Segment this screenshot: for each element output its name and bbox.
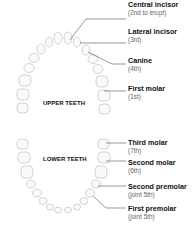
label-third-molar: Third molar (7th) [128, 139, 168, 155]
tooth-lower-central-incisor-right [65, 207, 72, 213]
tooth-upper-molar-1-right [96, 76, 108, 87]
tooth-lower-premolar-2-left [27, 180, 36, 188]
tooth-upper-canine-left [37, 44, 45, 54]
label-eruption-order: (7th) [128, 147, 168, 155]
label-eruption-order: (joint 5th) [128, 213, 176, 221]
tooth-lower-premolar-1-right [86, 189, 95, 197]
tooth-lower-premolar-2-right [92, 180, 101, 188]
upper-teeth-label: UPPER TEETH [43, 100, 85, 106]
tooth-lower-premolar-1-left [33, 189, 42, 197]
tooth-lower-canine-right [80, 198, 88, 205]
label-first-premolar: First premolar (joint 5th) [128, 205, 176, 221]
tooth-upper-lateral-incisor-left [46, 37, 53, 47]
label-name: Lateral incisor [128, 28, 177, 36]
tooth-upper-lateral-incisor-right [74, 37, 81, 47]
tooth-lower-canine-left [39, 198, 47, 205]
tooth-upper-premolar-1-left [29, 54, 39, 63]
label-second-molar: Second molar (6th) [128, 159, 176, 175]
tooth-upper-molar-2-right [98, 90, 110, 101]
tooth-upper-molar-3-right [99, 104, 110, 114]
label-second-premolar: Second premolar (joint 5th) [128, 183, 187, 199]
tooth-upper-premolar-2-right [93, 65, 103, 74]
tooth-upper-molar-1-left [19, 75, 31, 86]
tooth-upper-premolar-2-left [24, 64, 34, 73]
tooth-upper-premolar-1-right [88, 55, 98, 64]
lower-teeth-label: LOWER TEETH [43, 156, 87, 162]
label-name: Canine [128, 57, 152, 65]
label-central-incisor: Central incisor (2nd to erupt) [128, 1, 178, 17]
label-first-molar: First molar (1st) [128, 85, 165, 101]
label-name: Third molar [128, 139, 168, 147]
tooth-lower-molar-3-left [17, 139, 28, 149]
label-eruption-order: (joint 5th) [128, 191, 187, 199]
tooth-lower-molar-2-left [18, 152, 30, 163]
label-name: Second premolar [128, 183, 187, 191]
tooth-lower-molar-1-left [21, 166, 33, 178]
label-eruption-order: (2nd to erupt) [128, 9, 178, 17]
tooth-upper-central-incisor-left [54, 32, 62, 44]
label-name: Central incisor [128, 1, 178, 9]
lower-arch [17, 139, 110, 213]
label-lateral-incisor: Lateral incisor (3rd) [128, 28, 177, 44]
tooth-lower-molar-2-right [98, 152, 110, 163]
leader-lines [70, 19, 126, 208]
tooth-upper-canine-right [82, 45, 90, 55]
label-canine: Canine (4th) [128, 57, 152, 73]
tooth-lower-molar-1-right [95, 166, 107, 178]
leader-first-premolar [93, 196, 126, 208]
tooth-upper-molar-3-left [17, 103, 28, 113]
tooth-lower-lateral-incisor-left [47, 204, 54, 210]
label-eruption-order: (1st) [128, 93, 165, 101]
label-name: First molar [128, 85, 165, 93]
leader-central-incisor [70, 19, 126, 40]
label-name: First premolar [128, 205, 176, 213]
tooth-lower-central-incisor-left [55, 207, 62, 213]
label-eruption-order: (4th) [128, 65, 152, 73]
tooth-upper-central-incisor-right [64, 32, 72, 44]
tooth-lower-lateral-incisor-right [74, 204, 81, 210]
tooth-upper-molar-2-left [17, 89, 29, 100]
label-eruption-order: (6th) [128, 167, 176, 175]
tooth-lower-molar-3-right [98, 139, 109, 149]
label-name: Second molar [128, 159, 176, 167]
label-eruption-order: (3rd) [128, 36, 177, 44]
